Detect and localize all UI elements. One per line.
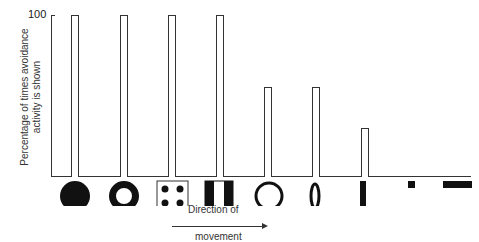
y-tick-label-100: 100 [28,8,46,20]
bar [361,128,369,177]
thin-ring-icon [256,183,282,206]
bar [71,15,79,177]
y-axis-label: Percentage of times avoidance activity i… [19,22,43,172]
vertical-bar-icon [360,181,366,206]
ellipse-ring-icon [311,184,319,206]
filled-disc-icon [60,181,90,206]
y-tick-100 [51,15,55,16]
stimulus-shapes [0,176,479,206]
movement-label: movement [195,231,242,242]
bar [216,15,224,177]
y-axis [51,15,52,176]
bar [168,15,176,177]
small-square-icon [408,181,415,188]
direction-label: Direction of [188,204,239,215]
bar [312,87,320,177]
horizontal-bar-icon [443,181,472,188]
bar [264,87,272,177]
direction-arrow [172,226,266,227]
bar [120,15,128,177]
four-dot-square-icon [157,181,188,206]
thick-ring-icon [113,185,136,207]
striped-rectangle-icon [205,181,233,206]
